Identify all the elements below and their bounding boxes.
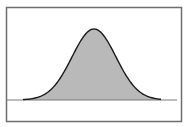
diagram-canvas <box>0 0 187 127</box>
curve-shaded-area <box>23 29 161 100</box>
bell-curve-figure <box>0 0 187 127</box>
